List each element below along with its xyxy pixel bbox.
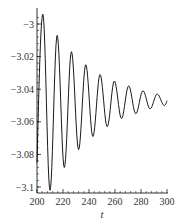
y-tick-label: −3.02 xyxy=(11,51,34,62)
x-tick-label: 220 xyxy=(56,196,71,207)
y-tick-label: −3.06 xyxy=(11,116,34,127)
axes: −3−3.02−3.04−3.06−3.08−3.1 2002202402602… xyxy=(11,8,175,207)
y-tick-label: −3.1 xyxy=(16,182,34,193)
y-tick-label: −3.04 xyxy=(11,84,34,95)
y-ticks: −3−3.02−3.04−3.06−3.08−3.1 xyxy=(11,17,41,192)
y-tick-label: −3 xyxy=(23,19,34,30)
x-tick-label: 300 xyxy=(160,196,175,207)
x-tick-label: 260 xyxy=(108,196,123,207)
chart-plot: −3−3.02−3.04−3.06−3.08−3.1 2002202402602… xyxy=(0,0,180,223)
x-ticks: 200220240260280300 xyxy=(30,189,175,207)
data-line xyxy=(37,14,167,190)
x-tick-label: 280 xyxy=(134,196,149,207)
y-tick-label: −3.08 xyxy=(11,149,34,160)
x-axis-label: t xyxy=(100,208,104,220)
x-tick-label: 240 xyxy=(82,196,97,207)
x-tick-label: 200 xyxy=(30,196,45,207)
